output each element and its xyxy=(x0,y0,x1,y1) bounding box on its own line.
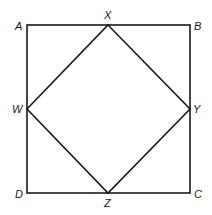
label-z: Z xyxy=(103,197,112,209)
outer-square-abcd xyxy=(27,25,190,193)
label-w: W xyxy=(12,103,24,115)
inner-square-wxyz xyxy=(27,25,190,193)
label-x: X xyxy=(103,9,112,21)
label-d: D xyxy=(15,188,23,200)
label-b: B xyxy=(194,20,201,32)
geometry-diagram: A X B W Y D Z C xyxy=(0,0,212,215)
label-a: A xyxy=(14,20,22,32)
label-c: C xyxy=(194,188,202,200)
label-y: Y xyxy=(193,103,201,115)
